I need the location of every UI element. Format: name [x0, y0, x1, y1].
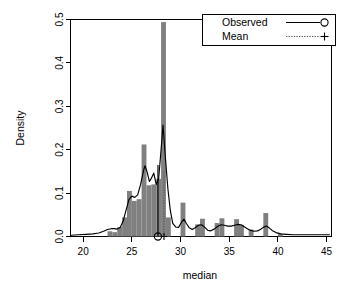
y-tick-label: 0.1: [54, 186, 65, 200]
density-curve: [71, 125, 329, 235]
x-tick-label: 40: [272, 246, 284, 257]
y-tick-label: 0.2: [54, 142, 65, 156]
y-tick-label: 0.0: [54, 229, 65, 243]
histogram-bar: [220, 218, 225, 236]
x-tick-label: 30: [175, 246, 187, 257]
x-tick-label: 35: [224, 246, 236, 257]
x-tick-label: 25: [126, 246, 138, 257]
chart-canvas: 202530354045 0.00.10.20.30.40.5 median D…: [0, 0, 350, 297]
histogram-bar: [132, 201, 137, 237]
legend: Observed Mean: [203, 15, 336, 46]
x-axis: 202530354045: [78, 237, 333, 257]
histogram-bar: [200, 219, 205, 237]
histogram-bar: [137, 199, 142, 236]
histogram-bar: [142, 144, 147, 236]
histogram-bar: [166, 217, 171, 236]
y-tick-label: 0.3: [54, 99, 65, 113]
density-histogram-chart: 202530354045 0.00.10.20.30.40.5 median D…: [0, 0, 350, 297]
legend-label-mean: Mean: [222, 30, 248, 42]
legend-label-observed: Observed: [222, 16, 268, 28]
y-tick-label: 0.5: [54, 12, 65, 26]
histogram-bar: [112, 232, 117, 236]
histogram-bars: [108, 22, 283, 236]
histogram-bar: [215, 223, 220, 236]
y-tick-label: 0.4: [54, 56, 65, 70]
x-tick-label: 45: [321, 246, 333, 257]
y-axis: 0.00.10.20.30.40.5: [54, 12, 71, 243]
histogram-bar: [146, 185, 151, 236]
x-axis-title: median: [183, 269, 218, 281]
x-tick-label: 20: [78, 246, 90, 257]
histogram-bar: [234, 219, 239, 236]
y-axis-title: Density: [14, 110, 26, 146]
histogram-bar: [151, 184, 156, 236]
histogram-bar: [263, 213, 268, 236]
histogram-bar: [156, 179, 161, 237]
plot-frame: [71, 20, 332, 237]
histogram-bar: [108, 231, 113, 236]
